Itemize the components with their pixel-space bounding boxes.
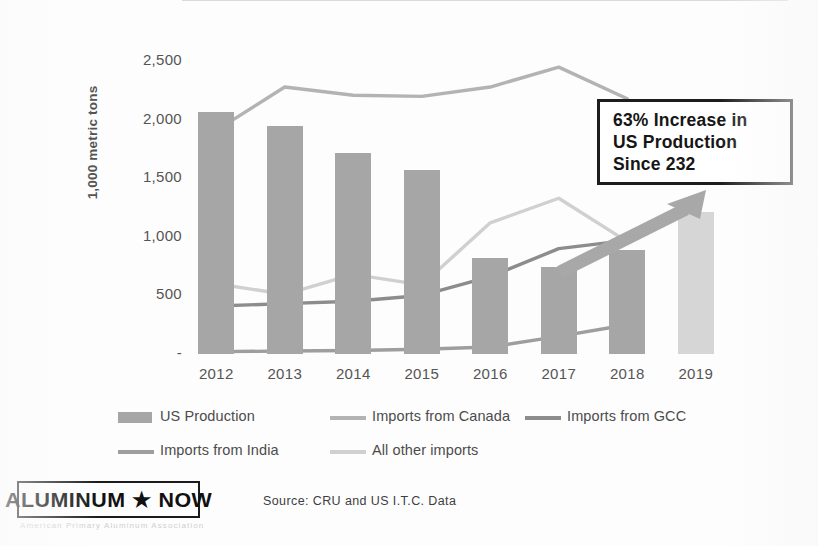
logo-text: ALUMINUM ★ NOW bbox=[5, 488, 212, 512]
legend-label: Imports from GCC bbox=[567, 408, 686, 424]
increase-arrow bbox=[0, 0, 818, 400]
legend-swatch-icon bbox=[330, 416, 366, 420]
callout-line-2: US Production bbox=[613, 131, 790, 153]
logo-subtitle: American Primary Aluminum Association bbox=[20, 521, 204, 530]
arrow-shaft bbox=[560, 209, 686, 272]
legend-label: All other imports bbox=[372, 442, 478, 458]
source-note: Source: CRU and US I.T.C. Data bbox=[263, 494, 456, 508]
callout-line-3: Since 232 bbox=[613, 153, 790, 175]
legend-label: Imports from Canada bbox=[372, 408, 510, 424]
chart-figure: 1,000 metric tons -5001,0001,5002,0002,5… bbox=[0, 0, 818, 546]
legend-swatch-icon bbox=[118, 412, 152, 423]
legend-swatch-icon bbox=[525, 416, 561, 420]
callout-box: 63% Increase in US Production Since 232 bbox=[597, 99, 793, 185]
chart-plot-area: 1,000 metric tons -5001,0001,5002,0002,5… bbox=[0, 0, 818, 400]
legend-label: US Production bbox=[160, 408, 255, 424]
chart-legend: US ProductionImports from CanadaImports … bbox=[0, 404, 818, 466]
legend-label: Imports from India bbox=[160, 442, 279, 458]
aluminum-now-logo: ALUMINUM ★ NOW bbox=[17, 481, 200, 518]
callout-line-1: 63% Increase in bbox=[613, 109, 790, 131]
legend-swatch-icon bbox=[118, 450, 154, 454]
legend-swatch-icon bbox=[330, 450, 366, 454]
